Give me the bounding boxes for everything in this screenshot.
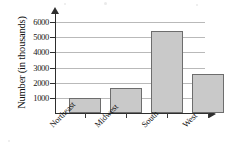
scan-artifact	[104, 2, 107, 5]
y-tick-label-4000: 4000	[23, 48, 49, 57]
y-tick-label-group: 6000 5000 4000 3000 2000 1000	[22, 22, 49, 113]
y-tick-label-6000: 6000	[23, 18, 49, 27]
bar-chart: Number (in thousands) 6000 5000 4000 300…	[0, 0, 229, 157]
x-tick-northeast	[85, 113, 86, 118]
bar-west	[192, 74, 224, 113]
y-tick-label-2000: 2000	[23, 79, 49, 88]
scan-artifact	[64, 3, 66, 5]
x-tick-west	[208, 113, 209, 118]
bar-south	[151, 31, 183, 113]
bars-layer	[55, 13, 210, 113]
scan-artifact	[196, 4, 198, 6]
x-tick-south	[167, 113, 168, 118]
x-axis-label-west: West	[181, 111, 199, 129]
y-tick-label-5000: 5000	[23, 33, 49, 42]
y-tick-label-1000: 1000	[23, 94, 49, 103]
x-tick-midwest	[126, 113, 127, 118]
scan-artifact	[8, 140, 10, 142]
y-tick-label-3000: 3000	[23, 64, 49, 73]
